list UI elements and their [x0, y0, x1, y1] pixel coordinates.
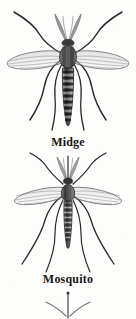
partial-insect-antennae [46, 294, 90, 318]
midge-abdomen [62, 68, 73, 126]
partial-insect-illustration [0, 288, 136, 319]
mosquito-caption: Mosquito [0, 273, 136, 286]
mosquito-head [63, 178, 72, 184]
mosquito-illustration [0, 152, 136, 274]
mosquito-thorax [61, 184, 74, 202]
insect-comparison-plate: Midge [0, 0, 136, 319]
midge-antennae [55, 14, 81, 40]
midge-thorax [60, 46, 77, 69]
midge-caption: Midge [0, 136, 136, 149]
mosquito-abdomen [64, 201, 72, 248]
partial-insect-head [66, 291, 69, 294]
midge-illustration [0, 2, 136, 134]
